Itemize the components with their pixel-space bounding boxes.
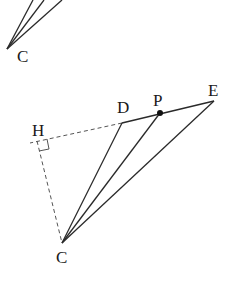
label-e: E [208,81,218,100]
point-p [157,110,163,116]
top-segment-2 [7,0,44,49]
segment-cd [62,123,122,243]
top-segment-3 [7,0,62,49]
top-label-c: C [17,47,28,66]
geometry-diagram: C H D P E C [0,0,227,284]
dashed-segment-hc [37,141,62,243]
label-d: D [117,98,129,117]
segment-ce [62,101,214,243]
segment-cp [62,113,160,243]
top-fragment: C [7,0,62,66]
top-segment-1 [7,0,33,49]
main-figure: H D P E C [30,81,218,267]
label-h: H [32,121,44,140]
segment-de [122,101,214,123]
right-angle-marker [39,139,49,151]
label-p: P [153,91,162,110]
label-c: C [56,248,67,267]
